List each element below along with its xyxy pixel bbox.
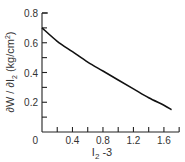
x-axis-label: I2 -3: [92, 146, 112, 161]
y-axis-label: ∂W / ∂I2 (kg/cm2): [4, 31, 18, 112]
ticks: 00.20.40.60.80.40.81.21.6: [24, 8, 179, 146]
x-tick-label: 1.2: [126, 135, 140, 146]
data-curve: [42, 28, 172, 110]
y-tick-label: 0.8: [24, 8, 38, 19]
x-tick-label: 0.4: [66, 135, 80, 146]
axes: [42, 13, 179, 132]
x-tick-label: 1.6: [157, 135, 171, 146]
y-tick-label: 0: [32, 135, 38, 146]
y-tick-label: 0.2: [24, 97, 38, 108]
chart: 00.20.40.60.80.40.81.21.6 I2 -3 ∂W / ∂I2…: [0, 0, 185, 162]
y-tick-label: 0.4: [24, 68, 38, 79]
x-tick-label: 0.8: [96, 135, 110, 146]
y-tick-label: 0.6: [24, 38, 38, 49]
